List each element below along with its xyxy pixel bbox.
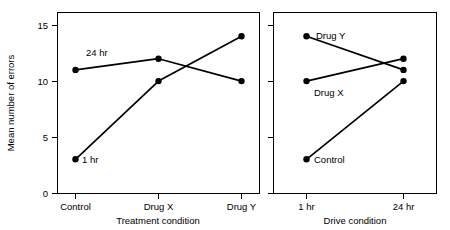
left-panel-y-ticks (52, 26, 58, 194)
left-panel-frame (58, 13, 260, 194)
left-panel: 15 10 5 0 Control Drug X Drug Y Treatmen… (5, 13, 260, 227)
right-series-drug-y-point-1hr (303, 33, 309, 39)
right-series-label-control: Control (314, 154, 345, 165)
x-tick-label-1hr: 1 hr (298, 201, 314, 212)
left-series-24hr-point-drug-x (155, 56, 161, 62)
left-series-1hr-point-control (72, 156, 78, 162)
right-series-control-point-1hr (303, 156, 309, 162)
left-panel-x-ticks (76, 194, 242, 200)
right-series-drug-x-point-24hr (400, 56, 406, 62)
right-series-drug-y-line (307, 36, 404, 70)
left-series-label-1hr: 1 hr (82, 154, 98, 165)
right-series-control-point-24hr (400, 78, 406, 84)
left-panel-x-axis-title: Treatment condition (116, 215, 200, 226)
y-tick-label-5: 5 (43, 132, 48, 143)
y-tick-label-0: 0 (43, 188, 48, 199)
right-panel-x-ticks (307, 194, 404, 200)
x-tick-label-control: Control (60, 201, 91, 212)
right-series-drug-y-point-24hr (400, 67, 406, 73)
x-tick-label-24hr: 24 hr (393, 201, 415, 212)
left-series-1hr-point-drug-x (155, 78, 161, 84)
interaction-plot-figure: 15 10 5 0 Control Drug X Drug Y Treatmen… (0, 0, 450, 230)
left-series-24hr-line (76, 59, 242, 81)
right-panel-x-axis-title: Drive condition (324, 215, 387, 226)
right-panel-frame (274, 13, 437, 194)
x-tick-label-drug-x: Drug X (144, 201, 174, 212)
right-panel-y-ticks (268, 26, 274, 194)
left-series-1hr-point-drug-y (238, 33, 244, 39)
right-panel: 1 hr 24 hr Drive condition Drug Y Drug X… (268, 13, 437, 227)
y-tick-label-10: 10 (37, 76, 48, 87)
left-series-label-24hr: 24 hr (86, 47, 108, 58)
right-series-label-drug-y: Drug Y (316, 30, 346, 41)
y-tick-label-15: 15 (37, 20, 48, 31)
right-series-label-drug-x: Drug X (314, 87, 344, 98)
x-tick-label-drug-y: Drug Y (227, 201, 257, 212)
right-series-drug-x-line (307, 59, 404, 81)
chart-svg: 15 10 5 0 Control Drug X Drug Y Treatmen… (0, 0, 450, 230)
left-series-24hr-point-drug-y (238, 78, 244, 84)
left-panel-y-axis-title: Mean number of errors (5, 54, 16, 151)
left-series-24hr-point-control (72, 67, 78, 73)
right-series-drug-x-point-1hr (303, 78, 309, 84)
